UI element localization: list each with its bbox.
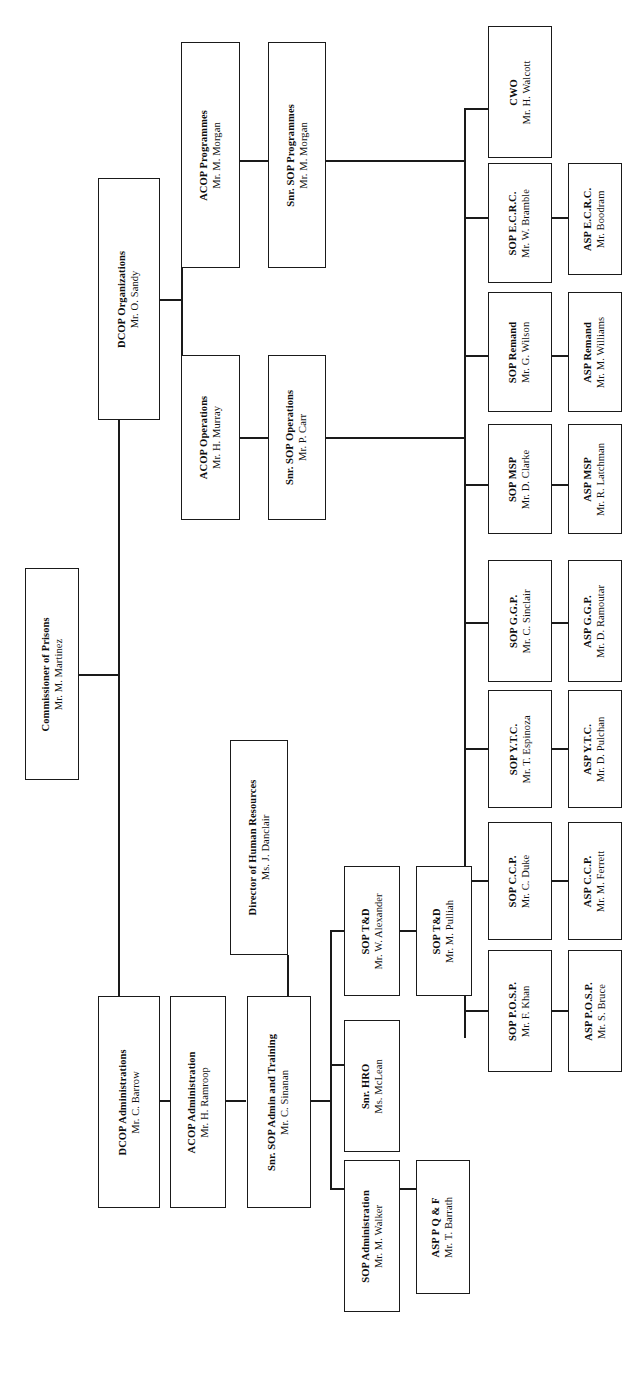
node-person: Mr. T. Espinoza	[520, 715, 533, 783]
node-title: SOP Y.T.C.	[507, 715, 520, 783]
node-person: Mr. M. Ferrett	[595, 850, 608, 911]
node-snr-sop-programmes[interactable]: Snr. SOP Programmes Mr. M. Morgan	[268, 42, 326, 268]
node-title: Commissioner of Prisons	[39, 617, 52, 731]
node-title: SOP Remand	[507, 321, 520, 382]
node-person: Mr. C. Barrow	[129, 1049, 142, 1155]
node-title: Director of Human Resources	[246, 780, 259, 916]
node-person: Mr. W. Alexander	[372, 893, 385, 969]
node-commissioner-of-prisons[interactable]: Commissioner of Prisons Mr. M. Martinez	[25, 568, 79, 780]
node-title: ASP Remand	[582, 316, 595, 387]
node-acop-administration[interactable]: ACOP Administration Mr. H. Ramroop	[170, 996, 226, 1208]
node-sop-td-pulliah[interactable]: SOP T&D Mr. M. Pulliah	[416, 866, 472, 996]
connector-spine-to-sop-msp	[464, 484, 488, 486]
node-person: Mr. H. Walcott	[520, 60, 533, 124]
node-person: Mr. D. Pulchan	[595, 716, 608, 782]
node-asp-ggp[interactable]: ASP G.G.P. Mr. D. Ramoutar	[568, 560, 622, 682]
node-title: Snr. HRO	[359, 1059, 372, 1114]
node-snr-sop-operations[interactable]: Snr. SOP Operations Mr. P. Carr	[268, 355, 326, 520]
node-sop-ccp[interactable]: SOP C.C.P. Mr. C. Duke	[488, 822, 552, 940]
node-asp-remand[interactable]: ASP Remand Mr. M. Williams	[568, 292, 622, 412]
connector-commissioner-stub	[79, 674, 119, 676]
node-asp-pqf[interactable]: ASP P Q & F Mr. T. Barrath	[416, 1160, 470, 1294]
connector-sop-remand-to-asp	[552, 355, 568, 357]
connector-spine-to-sop-posp	[464, 1010, 488, 1012]
node-snr-hro[interactable]: Snr. HRO Ms. McLean	[344, 1020, 400, 1152]
connector-spine-to-cwo	[464, 108, 488, 110]
node-person: Ms. McLean	[372, 1059, 385, 1114]
node-person: Mr. C. Sinanan	[279, 1033, 292, 1170]
node-title: SOP Administration	[359, 1190, 372, 1283]
node-person: Mr. H. Ramroop	[198, 1051, 211, 1153]
connector-acop-programmes-to-snr	[240, 160, 270, 162]
connector-snr-programmes-to-units	[326, 160, 465, 162]
node-title: SOP MSP	[507, 449, 520, 509]
node-person: Mr. M. Pulliah	[444, 899, 457, 962]
node-sop-td-alexander[interactable]: SOP T&D Mr. W. Alexander	[344, 866, 400, 996]
node-title: Snr. SOP Programmes	[284, 104, 297, 207]
node-title: ACOP Programmes	[197, 110, 210, 201]
node-asp-msp[interactable]: ASP MSP Mr. R. Latchman	[568, 424, 622, 534]
node-cwo[interactable]: CWO Mr. H. Walcott	[488, 26, 552, 158]
node-person: Mr. C. Duke	[520, 854, 533, 908]
node-title: ASP E.C.R.C.	[582, 187, 595, 250]
connector-sop-ecrc-to-asp	[552, 217, 568, 219]
node-person: Mr. M. Martinez	[52, 617, 65, 731]
node-sop-msp[interactable]: SOP MSP Mr. D. Clarke	[488, 424, 552, 534]
node-person: Mr. D. Ramoutar	[595, 584, 608, 657]
node-sop-administration[interactable]: SOP Administration Mr. M. Walker	[344, 1160, 400, 1312]
node-person: Mr. M. Morgan	[211, 110, 224, 201]
node-sop-ytc[interactable]: SOP Y.T.C. Mr. T. Espinoza	[488, 690, 552, 808]
node-acop-programmes[interactable]: ACOP Programmes Mr. M. Morgan	[181, 42, 240, 268]
node-asp-ecrc[interactable]: ASP E.C.R.C. Mr. Boodram	[568, 163, 622, 275]
node-title: Snr. SOP Admin and Training	[266, 1033, 279, 1170]
node-asp-posp[interactable]: ASP P.O.S.P. Mr. S. Bruce	[568, 950, 622, 1072]
node-title: ASP C.C.P.	[582, 850, 595, 911]
node-sop-ggp[interactable]: SOP G.G.P. Mr. C. Sinclair	[488, 560, 552, 682]
node-person: Mr. H. Murray	[211, 396, 224, 479]
node-asp-ytc[interactable]: ASP Y.T.C. Mr. D. Pulchan	[568, 690, 622, 808]
node-sop-ecrc[interactable]: SOP E.C.R.C. Mr. W. Bramble	[488, 163, 552, 283]
node-person: Mr. Boodram	[595, 187, 608, 250]
node-title: SOP T&D	[359, 893, 372, 969]
connector-spine-to-sop-ytc	[464, 748, 488, 750]
connector-spine-to-sop-remand	[464, 355, 488, 357]
node-sop-posp[interactable]: SOP P.O.S.P. Mr. F. Khan	[488, 950, 552, 1072]
node-acop-operations[interactable]: ACOP Operations Mr. H. Murray	[181, 355, 240, 520]
connector-snr-operations-to-units	[326, 437, 465, 439]
connector-sop-td-to-sop-td	[400, 930, 416, 932]
node-person: Mr. F. Khan	[520, 981, 533, 1040]
connector-sop-ggp-to-asp	[552, 622, 568, 624]
node-person: Mr. T. Barrath	[443, 1196, 456, 1257]
node-person: Mr. D. Clarke	[520, 449, 533, 509]
node-snr-sop-admin-and-training[interactable]: Snr. SOP Admin and Training Mr. C. Sinan…	[247, 996, 311, 1208]
connector-sop-ytc-to-asp	[552, 748, 568, 750]
connector-sub-to-sop-administration	[330, 1188, 344, 1190]
node-person: Mr. O. Sandy	[129, 250, 142, 347]
node-title: Snr. SOP Operations	[284, 390, 297, 485]
node-title: ASP G.G.P.	[582, 584, 595, 657]
organizational-chart: Commissioner of Prisons Mr. M. Martinez …	[0, 0, 628, 1384]
node-director-of-human-resources[interactable]: Director of Human Resources Ms. J. Dancl…	[230, 740, 288, 955]
connector-sop-ccp-to-asp	[552, 880, 568, 882]
node-asp-ccp[interactable]: ASP C.C.P. Mr. M. Ferrett	[568, 822, 622, 940]
connector-sub-to-sop-td	[330, 930, 344, 932]
node-title: DCOP Organizations	[116, 250, 129, 347]
node-title: SOP T&D	[431, 899, 444, 962]
node-person: Ms. J. Danclair	[259, 780, 272, 916]
node-title: ACOP Operations	[197, 396, 210, 479]
node-title: ASP P.O.S.P.	[582, 982, 595, 1041]
connector-sub-to-snr-hro	[330, 1064, 344, 1066]
node-title: SOP C.C.P.	[507, 854, 520, 908]
node-person: Mr. W. Bramble	[520, 188, 533, 257]
node-person: Mr. P. Carr	[297, 390, 310, 485]
connector-sop-administration-to-asp-pqf	[400, 1188, 416, 1190]
node-person: Mr. S. Bruce	[595, 982, 608, 1041]
node-sop-remand[interactable]: SOP Remand Mr. G. Wilson	[488, 292, 552, 412]
connector-admin-sub-spine	[330, 930, 332, 1188]
node-person: Mr. M. Walker	[372, 1190, 385, 1283]
node-title: ASP MSP	[582, 442, 595, 515]
connector-acop-admin-to-snr-admin	[226, 1100, 246, 1102]
node-dcop-organizations[interactable]: DCOP Organizations Mr. O. Sandy	[98, 178, 160, 420]
connector-acop-operations-to-snr	[240, 437, 270, 439]
node-dcop-administrations[interactable]: DCOP Administrations Mr. C. Barrow	[98, 996, 160, 1208]
